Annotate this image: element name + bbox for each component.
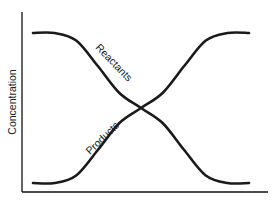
annotation-products: Products [83, 119, 121, 156]
chart: Concentration Reactants Products [0, 0, 279, 205]
y-axis-label: Concentration [6, 69, 18, 135]
series-line-products [33, 32, 249, 183]
annotation-reactants: Reactants [94, 41, 135, 83]
